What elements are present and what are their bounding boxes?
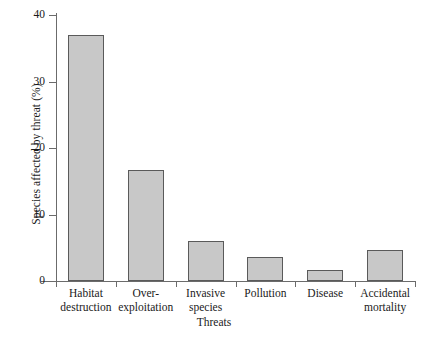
x-category-label-line1: Invasive	[186, 287, 225, 299]
bar	[247, 257, 283, 281]
x-category-label: Disease	[291, 286, 359, 300]
y-tick: 40	[0, 15, 56, 16]
x-category-label-line2: mortality	[351, 300, 419, 314]
x-axis-line	[41, 281, 415, 282]
bar	[128, 170, 164, 281]
y-tick-mark	[49, 215, 56, 216]
x-category-label-line1: Disease	[307, 287, 343, 299]
bar-chart-figure: Species affected by threat (%) 010203040…	[0, 0, 428, 338]
bar	[68, 35, 104, 281]
x-category-label-line2: exploitation	[112, 300, 180, 314]
y-tick-label: 30	[34, 73, 46, 89]
y-tick: 30	[0, 82, 56, 83]
y-tick-mark	[49, 281, 56, 282]
y-tick-label: 20	[34, 139, 46, 155]
bar	[307, 270, 343, 281]
y-tick-mark	[49, 148, 56, 149]
y-tick-label: 40	[34, 6, 46, 22]
x-axis-title: Threats	[0, 316, 428, 328]
x-category-label-line2: species	[172, 300, 240, 314]
y-tick: 0	[0, 281, 56, 282]
x-category-label: Invasivespecies	[172, 286, 240, 314]
x-category-label: Accidentalmortality	[351, 286, 419, 314]
y-tick-label: 0	[39, 272, 45, 288]
y-tick-label: 10	[34, 206, 46, 222]
x-category-label: Pollution	[232, 286, 300, 300]
x-category-label-line1: Pollution	[244, 287, 286, 299]
bar	[367, 250, 403, 281]
x-category-label-line1: Habitat	[69, 287, 103, 299]
x-category-label-line1: Accidental	[360, 287, 410, 299]
bar	[188, 241, 224, 281]
x-category-label-line2: destruction	[52, 300, 120, 314]
y-tick-mark	[49, 82, 56, 83]
x-category-label: Over-exploitation	[112, 286, 180, 314]
y-tick-mark	[49, 15, 56, 16]
x-category-label-line1: Over-	[132, 287, 159, 299]
y-axis-line	[56, 13, 57, 282]
x-category-label: Habitatdestruction	[52, 286, 120, 314]
y-tick: 10	[0, 215, 56, 216]
y-tick: 20	[0, 148, 56, 149]
